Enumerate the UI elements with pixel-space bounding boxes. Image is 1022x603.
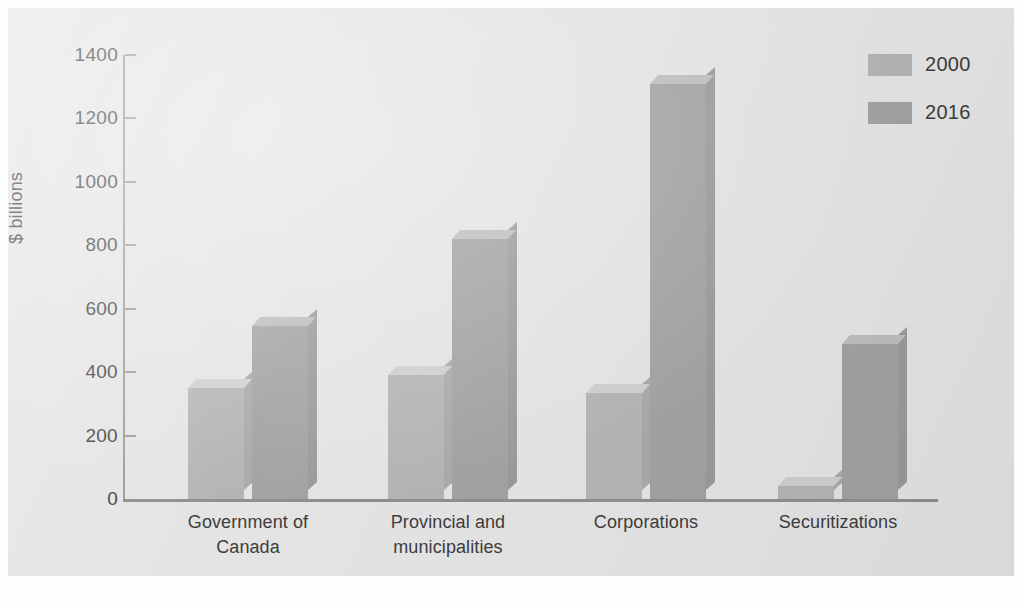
legend-item-2016[interactable]: 2016 — [868, 101, 971, 124]
chart-panel: $ billions 0200400600800100012001400 Gov… — [8, 8, 1014, 576]
y-tick-label: 400 — [54, 361, 118, 383]
y-tick-label: 800 — [54, 234, 118, 256]
y-tick-label: 1000 — [54, 171, 118, 193]
chart-legend: 2000 2016 — [868, 53, 971, 149]
bar-front-face — [842, 344, 898, 499]
bar-top-face — [452, 230, 516, 239]
y-tick-mark — [125, 435, 136, 437]
y-tick-label: 1400 — [54, 44, 118, 66]
bar-front-face — [778, 486, 834, 499]
x-axis-line — [123, 499, 938, 502]
y-tick-label: 0 — [54, 488, 118, 510]
bar-side-face — [706, 66, 715, 490]
chart-page: $ billions 0200400600800100012001400 Gov… — [0, 0, 1022, 603]
bar-top-face — [252, 317, 316, 326]
bar-top-face — [778, 477, 842, 486]
y-tick-mark — [125, 308, 136, 310]
bar-front-face — [188, 388, 244, 499]
plot-area: $ billions 0200400600800100012001400 Gov… — [8, 8, 1014, 576]
y-tick-mark — [125, 54, 136, 56]
legend-item-2000[interactable]: 2000 — [868, 53, 971, 76]
bar-front-face — [388, 375, 444, 499]
y-tick-mark — [125, 371, 136, 373]
legend-label-2000: 2000 — [925, 53, 971, 76]
y-tick-label: 600 — [54, 298, 118, 320]
legend-label-2016: 2016 — [925, 101, 971, 124]
x-category-label-line: Government of — [133, 510, 363, 535]
x-category-label: Government ofCanada — [133, 510, 363, 560]
y-tick-label: 200 — [54, 425, 118, 447]
y-tick-mark — [125, 244, 136, 246]
bar-top-face — [650, 75, 714, 84]
bar-top-face — [586, 384, 650, 393]
x-category-label-line: Securitizations — [723, 510, 953, 535]
bar-top-face — [188, 379, 252, 388]
bar-top-face — [842, 335, 906, 344]
bar-2000-3[interactable] — [586, 393, 642, 499]
legend-swatch-2000 — [868, 54, 912, 76]
bar-2016-2[interactable] — [452, 239, 508, 499]
bar-side-face — [898, 326, 907, 489]
y-tick-mark — [125, 181, 136, 183]
bar-front-face — [650, 84, 706, 499]
bar-2000-4[interactable] — [778, 486, 834, 499]
x-category-label-line: Provincial and — [333, 510, 563, 535]
bar-2000-1[interactable] — [188, 388, 244, 499]
legend-swatch-2016 — [868, 102, 912, 124]
y-tick-mark — [125, 117, 136, 119]
bar-side-face — [508, 222, 517, 490]
bar-front-face — [452, 239, 508, 499]
bar-2016-4[interactable] — [842, 344, 898, 499]
bar-2000-2[interactable] — [388, 375, 444, 499]
bar-2016-1[interactable] — [252, 326, 308, 499]
y-axis-title: $ billions — [8, 172, 27, 244]
y-tick-label: 1200 — [54, 107, 118, 129]
bar-2016-3[interactable] — [650, 84, 706, 499]
bar-front-face — [586, 393, 642, 499]
x-category-label: Securitizations — [723, 510, 953, 535]
bar-side-face — [308, 309, 317, 490]
x-category-label: Provincial andmunicipalities — [333, 510, 563, 560]
x-category-label-line: municipalities — [333, 535, 563, 560]
x-category-label-line: Canada — [133, 535, 363, 560]
bar-top-face — [388, 366, 452, 375]
bar-front-face — [252, 326, 308, 499]
